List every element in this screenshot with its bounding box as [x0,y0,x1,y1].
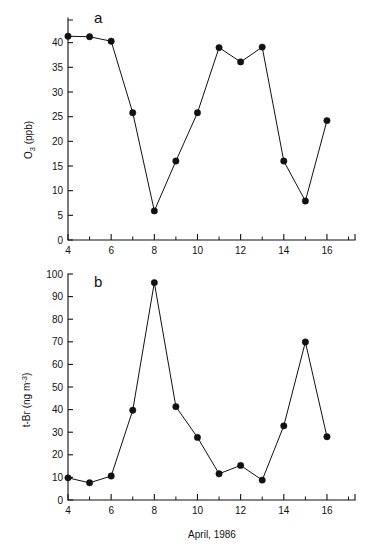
panel-b-y-tick-label: 90 [52,291,64,302]
panel-b-y-tick-label: 60 [52,359,64,370]
panel-b-y-tick-label: 40 [52,404,64,415]
panel-a-x-tick-label: 14 [278,245,290,256]
panel-a-data-point [281,158,287,164]
panel-b-x-tick-label: 16 [321,505,333,516]
panel-a-x-tick-label: 10 [192,245,204,256]
panel-a-series-line [68,36,327,211]
panel-a-y-tick-label: 5 [57,210,63,221]
panel-b-data-point [237,462,243,468]
panel-a-data-point [259,44,265,50]
panel-b-data-point [281,423,287,429]
panel-b-series-line [68,283,327,483]
panel-b-data-point [173,403,179,409]
panel-a-x-tick-label: 6 [108,245,114,256]
panel-b-label: b [94,273,102,290]
panel-a-x-tick-label: 12 [235,245,247,256]
panel-b-data-point [65,475,71,481]
panel-b-y-tick-label: 0 [57,495,63,506]
panel-a-label: a [94,9,103,26]
panel-b-y-axis-title-close: ) [21,373,32,376]
panel-a-y-axis-title: O3 (ppb) [23,121,37,159]
panel-a-series-points [65,33,330,214]
figure-root: a O3 (ppb) 0510152025303540 46810121416 … [0,0,378,556]
panel-b-y-tick-label: 50 [52,382,64,393]
panel-a-y-tick-label: 0 [57,235,63,246]
panel-b-data-point [259,477,265,483]
panel-a-y-tick-label: 30 [52,87,64,98]
panel-a-data-point [151,208,157,214]
panel-a-data-point [173,158,179,164]
panel-b-x-tick-label: 8 [152,505,158,516]
panel-b-data-point [86,480,92,486]
panel-a-y-tick-labels: 0510152025303540 [52,37,64,245]
panel-b-y-tick-label: 10 [52,472,64,483]
panel-b-y-tick-label: 100 [46,269,63,280]
panel-a-y-tick-label: 15 [52,161,64,172]
panel-a-data-point [237,59,243,65]
panel-b-data-point [324,434,330,440]
panel-a-data-point [108,38,114,44]
panel-a-y-tick-label: 35 [52,62,64,73]
panel-b-data-point [151,279,157,285]
panel-b-y-tick-labels: 0102030405060708090100 [46,269,63,506]
panel-b-x-tick-labels: 46810121416 [65,505,333,516]
panel-a-data-point [216,44,222,50]
panel-b-series-points [65,279,330,486]
panel-b-data-point [302,339,308,345]
panel-b-x-tick-label: 10 [192,505,204,516]
svg-text:t-Br (ng m-3): t-Br (ng m-3) [20,373,33,427]
panel-a-x-tick-label: 8 [152,245,158,256]
panel-a-y-tick-label: 40 [52,37,64,48]
x-axis-title: April, 1986 [188,529,236,540]
panel-b-y-tick-label: 30 [52,427,64,438]
panel-b-data-point [130,407,136,413]
panel-b-y-tick-label: 80 [52,314,64,325]
panel-b-x-tick-label: 12 [235,505,247,516]
panel-a-x-tick-label: 4 [65,245,71,256]
panel-b-x-tick-label: 14 [278,505,290,516]
panel-a-x-tick-label: 16 [321,245,333,256]
panel-b-y-axis-title-sup: -3 [20,376,29,383]
panel-a-y-tick-label: 10 [52,185,64,196]
panel-b-data-point [108,473,114,479]
panel-b-data-point [194,434,200,440]
panel-a-data-point [324,117,330,123]
panel-a-data-point [194,110,200,116]
panel-b-x-tick-label: 6 [108,505,114,516]
panel-b-y-tick-label: 20 [52,449,64,460]
panel-b-y-axis-title: t-Br (ng m-3) [20,373,33,427]
panel-b-axis-spine [68,274,355,500]
panel-a-data-point [86,34,92,40]
svg-text:O3 (ppb): O3 (ppb) [23,121,37,159]
panel-b-y-axis-title-main: t-Br (ng m [21,383,32,427]
panel-a-axes [68,18,355,240]
panel-a-x-tick-labels: 46810121416 [65,245,333,256]
panel-a-y-tick-label: 20 [52,136,64,147]
panel-a-y-tick-label: 25 [52,111,64,122]
panel-b-data-point [216,471,222,477]
panel-a-data-point [302,198,308,204]
panel-a-y-axis-title-unit: (ppb) [23,121,34,147]
panel-b-axes [68,274,355,500]
panel-b-x-tick-label: 4 [65,505,71,516]
panel-a-axis-spine [68,18,355,240]
panel-b-y-tick-label: 70 [52,336,64,347]
panel-a: a O3 (ppb) 0510152025303540 46810121416 [23,9,355,256]
panel-a-data-point [130,110,136,116]
panel-b: b t-Br (ng m-3) 0102030405060708090100 4… [20,269,356,540]
panel-a-data-point [65,33,71,39]
